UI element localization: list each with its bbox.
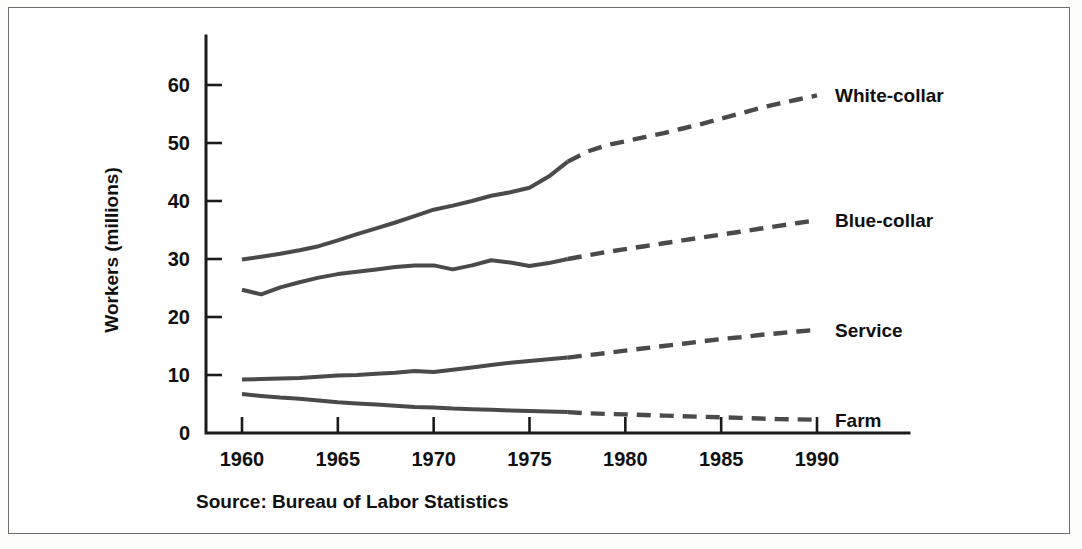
source-note: Source: Bureau of Labor Statistics [196,491,509,512]
figure-root: 0102030405060 19601965197019751980198519… [0,0,1082,549]
x-tick-label: 1975 [507,448,552,470]
x-axis-ticks: 1960196519701975198019851990 [220,417,840,470]
y-tick-label: 10 [168,364,190,386]
series-label-white-collar: White-collar [835,85,944,106]
x-tick-label: 1980 [603,448,648,470]
series-line-projected-farm [568,412,817,420]
x-tick-label: 1985 [699,448,744,470]
series-line-solid-farm [242,394,568,412]
x-tick-label: 1960 [220,448,265,470]
series-line-projected-service [568,330,817,358]
x-tick-label: 1990 [795,448,840,470]
series-label-blue-collar: Blue-collar [835,210,934,231]
chart-axes [206,36,909,433]
series-labels: White-collarBlue-collarServiceFarm [835,85,944,430]
series-line-projected-blue-collar [568,220,817,259]
series-label-farm: Farm [835,410,881,431]
chart-series [242,95,817,419]
y-tick-label: 40 [168,190,190,212]
series-line-solid-service [242,358,568,380]
y-tick-label: 20 [168,306,190,328]
x-tick-label: 1970 [411,448,456,470]
line-chart: 0102030405060 19601965197019751980198519… [0,0,1082,549]
y-tick-label: 0 [179,422,190,444]
x-tick-label: 1965 [316,448,361,470]
y-tick-label: 60 [168,74,190,96]
y-tick-label: 50 [168,132,190,154]
y-tick-label: 30 [168,248,190,270]
series-line-solid-white-collar [242,162,568,260]
y-axis-ticks: 0102030405060 [168,74,222,444]
axis-lines [206,36,909,433]
series-label-service: Service [835,320,903,341]
series-line-projected-white-collar [568,95,817,161]
series-line-solid-blue-collar [242,259,568,294]
y-axis-title: Workers (millions) [101,167,122,332]
